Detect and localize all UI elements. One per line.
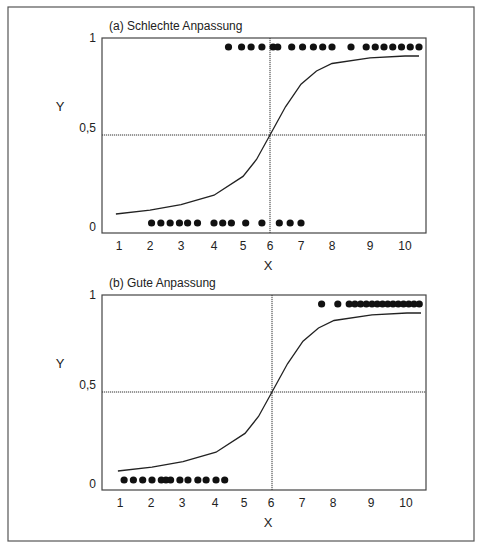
data-point xyxy=(380,43,387,50)
data-point xyxy=(297,219,304,226)
data-point xyxy=(288,43,295,50)
panel-a: (a) Schlechte Anpassung10,50Y12345678910… xyxy=(56,19,426,273)
y-tick-label: 0 xyxy=(89,220,96,234)
x-tick-label: 9 xyxy=(367,239,374,253)
x-axis-label: X xyxy=(264,515,273,530)
y-tick-label: 1 xyxy=(89,31,96,45)
x-tick-label: 3 xyxy=(179,496,186,510)
x-tick-label: 10 xyxy=(399,496,413,510)
data-point xyxy=(212,476,219,483)
x-tick-label: 3 xyxy=(178,239,185,253)
data-point xyxy=(210,219,217,226)
y-tick-label: 1 xyxy=(89,288,96,302)
data-point xyxy=(139,476,146,483)
data-point xyxy=(287,219,294,226)
data-point xyxy=(318,300,325,307)
x-tick-label: 4 xyxy=(211,239,218,253)
panel-b: (b) Gute Anpassung10,50Y12345678910X xyxy=(56,276,426,530)
data-point xyxy=(319,43,326,50)
data-point xyxy=(347,43,354,50)
y-tick-label: 0,5 xyxy=(79,121,96,135)
logistic-curve xyxy=(116,56,419,214)
x-tick-label: 8 xyxy=(330,496,337,510)
data-point xyxy=(274,43,281,50)
data-point xyxy=(398,43,405,50)
data-point xyxy=(416,300,423,307)
panel-title: (a) Schlechte Anpassung xyxy=(109,19,242,33)
data-point xyxy=(258,219,265,226)
logistic-curve xyxy=(118,313,421,471)
data-point xyxy=(363,43,370,50)
data-point xyxy=(248,43,255,50)
data-point xyxy=(225,43,232,50)
x-tick-label: 9 xyxy=(368,496,375,510)
figure: (a) Schlechte Anpassung10,50Y12345678910… xyxy=(0,0,481,547)
data-point xyxy=(148,219,155,226)
data-point xyxy=(148,476,155,483)
y-axis-label: Y xyxy=(56,99,65,114)
x-tick-label: 4 xyxy=(212,496,219,510)
y-axis-label: Y xyxy=(56,356,65,371)
data-point xyxy=(238,43,245,50)
x-tick-label: 2 xyxy=(147,239,154,253)
y-tick-label: 0 xyxy=(89,477,96,491)
data-point xyxy=(415,43,422,50)
data-point xyxy=(310,43,317,50)
x-tick-label: 7 xyxy=(299,496,306,510)
x-tick-label: 5 xyxy=(241,496,248,510)
data-point xyxy=(242,219,249,226)
data-point xyxy=(157,219,164,226)
data-point xyxy=(121,476,128,483)
data-point xyxy=(167,476,174,483)
x-axis-label: X xyxy=(264,258,273,273)
data-point xyxy=(184,476,191,483)
x-tick-label: 10 xyxy=(398,239,412,253)
data-point xyxy=(389,43,396,50)
data-point xyxy=(407,43,414,50)
x-tick-label: 8 xyxy=(329,239,336,253)
x-tick-label: 6 xyxy=(268,496,275,510)
y-tick-label: 0,5 xyxy=(79,378,96,392)
data-point xyxy=(194,476,201,483)
x-tick-label: 6 xyxy=(267,239,274,253)
x-tick-label: 7 xyxy=(298,239,305,253)
data-point xyxy=(167,219,174,226)
data-point xyxy=(130,476,137,483)
x-tick-label: 5 xyxy=(240,239,247,253)
outer-frame xyxy=(8,7,474,541)
data-point xyxy=(258,43,265,50)
x-tick-label: 1 xyxy=(117,496,124,510)
data-point xyxy=(176,476,183,483)
data-point xyxy=(299,43,306,50)
data-point xyxy=(184,219,191,226)
data-point xyxy=(194,219,201,226)
data-point xyxy=(228,219,235,226)
x-tick-label: 2 xyxy=(148,496,155,510)
data-point xyxy=(328,43,335,50)
x-tick-label: 1 xyxy=(116,239,123,253)
data-point xyxy=(221,476,228,483)
data-point xyxy=(372,43,379,50)
data-point xyxy=(276,219,283,226)
data-point xyxy=(334,300,341,307)
panel-title: (b) Gute Anpassung xyxy=(109,276,216,290)
data-point xyxy=(219,219,226,226)
data-point xyxy=(203,476,210,483)
data-point xyxy=(176,219,183,226)
